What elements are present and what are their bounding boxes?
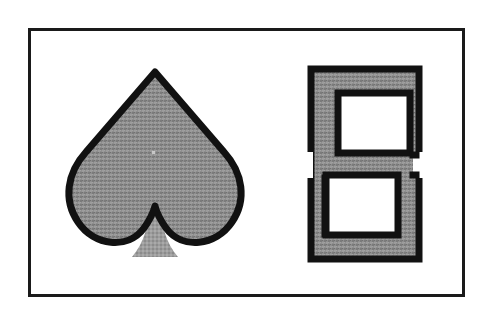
figure-canvas [0,0,490,324]
figure-container: Two outlined shapes with halftone gray f… [0,0,490,324]
scan-speck [152,151,155,154]
s-block-left-cut [299,152,313,178]
s-block-upper-hole [338,93,410,153]
s-block-lower-hole [326,175,398,235]
